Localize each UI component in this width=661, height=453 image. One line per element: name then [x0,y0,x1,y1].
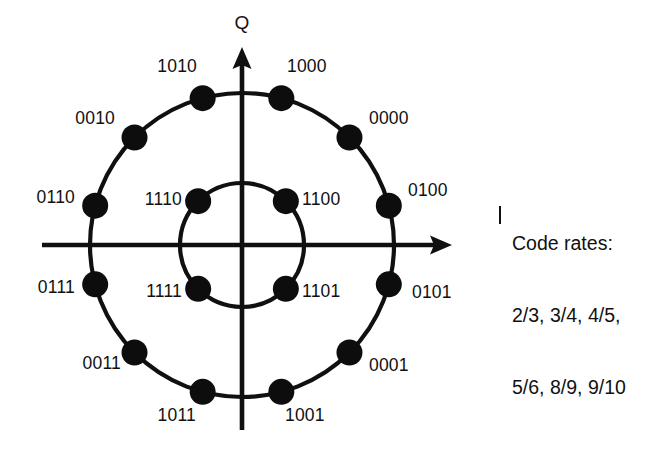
constellation-point[interactable] [122,339,148,365]
symbol-label: 0101 [412,282,452,302]
q-axis-label: Q [235,12,250,33]
constellation-point[interactable] [190,85,216,111]
symbol-label: 1001 [285,405,325,425]
symbol-label: 0011 [83,353,121,373]
symbol-label: 1100 [302,189,340,209]
symbol-label: 0111 [38,277,75,297]
constellation-point[interactable] [376,193,402,219]
constellation-point[interactable] [273,188,299,214]
constellation-point[interactable] [336,339,362,365]
symbol-label: 0110 [37,187,75,207]
constellation-point[interactable] [336,125,362,151]
symbol-label: 1110 [145,189,182,209]
constellation-point[interactable] [82,271,108,297]
constellation-point[interactable] [273,276,299,302]
constellation-point[interactable] [190,379,216,405]
symbol-label: 1010 [157,56,197,76]
symbol-label: 1101 [302,281,340,301]
symbol-label: 0000 [369,108,409,128]
symbol-label: 1111 [146,281,182,301]
constellation-point[interactable] [268,85,294,111]
constellation-point[interactable] [185,276,211,302]
constellation-figure: Q 0100 0000 1000 1010 [0,0,661,453]
symbol-label: 1011 [158,405,196,425]
code-rates-line-1: 2/3, 3/4, 4/5, [512,303,657,327]
symbol-label: 0010 [75,108,115,128]
constellation-point[interactable] [185,188,211,214]
symbol-label: 0100 [408,180,448,200]
code-rates-line-2: 5/6, 8/9, 9/10 [512,375,657,399]
constellation-point[interactable] [268,379,294,405]
constellation-point[interactable] [82,193,108,219]
symbol-label: 1000 [287,56,327,76]
code-rates-title: Code rates: [512,231,657,255]
constellation-point[interactable] [376,271,402,297]
symbol-label: 0001 [369,355,409,375]
code-rates-note: Code rates: 2/3, 3/4, 4/5, 5/6, 8/9, 9/1… [512,183,657,447]
code-rates-bar-glyph [499,206,501,224]
constellation-point[interactable] [122,125,148,151]
